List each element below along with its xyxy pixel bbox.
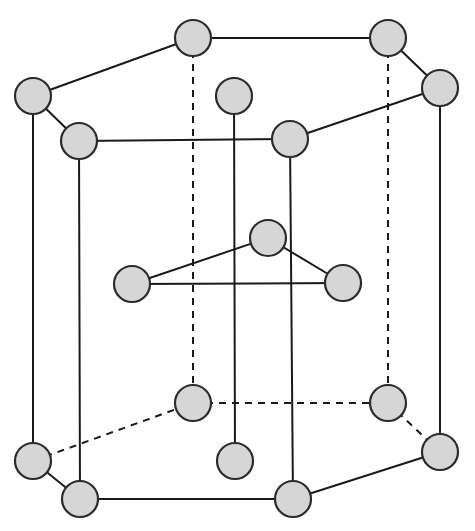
atom-layer: top hexagon back cornertop hexagon right… — [15, 20, 458, 517]
atom-sphere-bot-back: bottom hexagon back corner — [175, 385, 211, 421]
atom-sphere-bot-center-face: bottom basal face center atom — [217, 443, 253, 479]
atom-sphere-bot-right: bottom hexagon right corner — [422, 434, 458, 470]
atom-mid-top: midplane interior back atom — [250, 220, 286, 256]
bond-mid-bond-left-right — [132, 283, 343, 284]
bond-mid-bond-left-top — [132, 238, 268, 284]
atom-mid-left: midplane interior left atom — [114, 266, 150, 302]
hcp-crystal-figure: top hexagon back cornertop hexagon right… — [0, 0, 475, 531]
bond-vert-front-right — [290, 139, 293, 499]
atom-bot-right-back: bottom hexagon right-back corner — [370, 385, 406, 421]
atom-sphere-top-front-right: top hexagon front-right corner — [272, 121, 308, 157]
atom-bot-back: bottom hexagon back corner — [175, 385, 211, 421]
atom-bot-center-face: bottom basal face center atom — [217, 443, 253, 479]
bond-bot-edge-right-down — [293, 452, 440, 499]
atom-sphere-top-back: top hexagon back corner — [175, 20, 211, 56]
atom-sphere-mid-right: midplane interior right atom — [325, 265, 361, 301]
atom-sphere-bot-left: bottom hexagon left corner — [15, 443, 51, 479]
atom-mid-right: midplane interior right atom — [325, 265, 361, 301]
atom-sphere-top-front-left: top hexagon front-left corner — [61, 123, 97, 159]
atom-sphere-top-right: top hexagon right corner — [422, 70, 458, 106]
atom-top-right: top hexagon right corner — [422, 70, 458, 106]
atom-sphere-bot-front-left: bottom hexagon front-left corner — [62, 481, 98, 517]
atom-sphere-mid-left: midplane interior left atom — [114, 266, 150, 302]
atom-top-front-left: top hexagon front-left corner — [61, 123, 97, 159]
bond-top-edge-back-left — [33, 38, 193, 96]
atom-sphere-bot-front-right: bottom hexagon front-right corner — [275, 481, 311, 517]
atom-top-back: top hexagon back corner — [175, 20, 211, 56]
bond-vert-front-left — [79, 141, 80, 499]
bond-vert-center-face — [234, 96, 235, 461]
atom-sphere-mid-top: midplane interior back atom — [250, 220, 286, 256]
atom-top-right-back: top hexagon right-back corner — [370, 20, 406, 56]
atom-sphere-top-left: top hexagon left corner — [15, 78, 51, 114]
crystal-structure-canvas: top hexagon back cornertop hexagon right… — [0, 0, 475, 531]
atom-sphere-top-center-face: top basal face center atom — [216, 78, 252, 114]
atom-top-front-right: top hexagon front-right corner — [272, 121, 308, 157]
atom-sphere-bot-right-back: bottom hexagon right-back corner — [370, 385, 406, 421]
atom-bot-right: bottom hexagon right corner — [422, 434, 458, 470]
bond-top-edge-right-down — [290, 88, 440, 139]
atom-bot-front-left: bottom hexagon front-left corner — [62, 481, 98, 517]
atom-top-left: top hexagon left corner — [15, 78, 51, 114]
bond-top-edge-front — [79, 139, 290, 141]
atom-bot-front-right: bottom hexagon front-right corner — [275, 481, 311, 517]
bond-bot-edge-back-left — [33, 403, 193, 461]
atom-bot-left: bottom hexagon left corner — [15, 443, 51, 479]
atom-sphere-top-right-back: top hexagon right-back corner — [370, 20, 406, 56]
atom-top-center-face: top basal face center atom — [216, 78, 252, 114]
